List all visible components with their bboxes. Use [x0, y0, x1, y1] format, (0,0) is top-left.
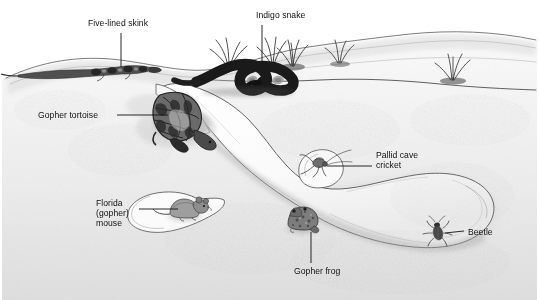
burrow-illustration-figure: Five-lined skink Indigo snake Gopher tor… — [0, 0, 539, 300]
label-florida-gopher-mouse-line1: Florida — [96, 198, 156, 208]
label-indigo-snake: Indigo snake — [256, 10, 305, 20]
label-florida-gopher-mouse-line2: (gopher) — [96, 208, 156, 218]
label-florida-gopher-mouse: Florida (gopher) mouse — [96, 198, 156, 229]
label-florida-gopher-mouse-line3: mouse — [96, 218, 156, 228]
label-pallid-cave-cricket: Pallid cave cricket — [376, 150, 446, 170]
label-gopher-tortoise: Gopher tortoise — [38, 110, 98, 120]
label-beetle: Beetle — [468, 227, 493, 237]
label-pallid-cave-cricket-line1: Pallid cave — [376, 150, 446, 160]
label-gopher-frog: Gopher frog — [294, 266, 340, 276]
label-pallid-cave-cricket-line2: cricket — [376, 160, 446, 170]
illustration-canvas — [0, 0, 539, 300]
gopher-frog-illustration — [287, 207, 319, 234]
label-five-lined-skink: Five-lined skink — [88, 18, 148, 28]
